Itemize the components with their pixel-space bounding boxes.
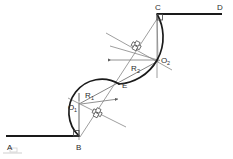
svg-text:1: 1 [91,95,94,101]
label-point-b: B [76,143,81,152]
svg-text:1: 1 [74,107,77,113]
label-radius-r2: R 2 [131,64,140,74]
svg-text:2: 2 [137,68,140,74]
label-radius-r1: R 1 [85,91,94,101]
label-point-c: C [155,3,161,12]
arc-upper-r2 [119,14,163,84]
label-center-o2: O 2 [161,56,170,66]
svg-text:2: 2 [167,60,170,66]
label-point-a: A [7,143,13,152]
diagram-canvas: A B C D E O 1 O 2 R 1 R 2 [0,0,233,159]
bisector-tick-upper [130,40,142,52]
label-point-d: D [217,3,223,12]
reverse-curve-diagram: A B C D E O 1 O 2 R 1 R 2 [0,0,233,159]
label-center-o1: O 1 [68,103,77,113]
label-point-e: E [122,81,127,90]
chord-b-to-c [80,16,159,137]
